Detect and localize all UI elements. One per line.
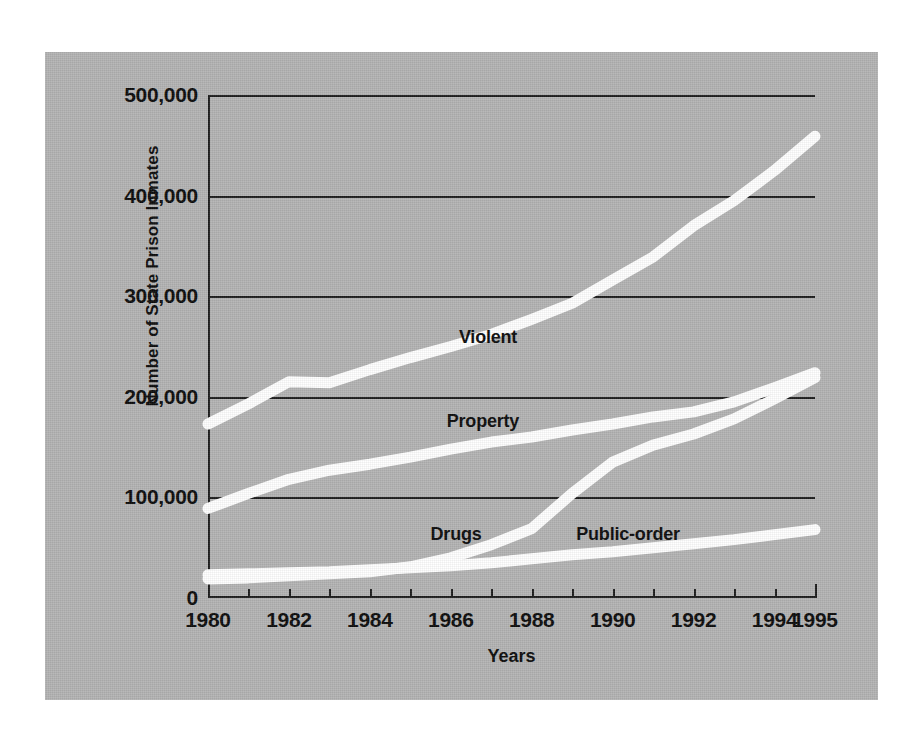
x-tick-label: 1980 (185, 608, 231, 632)
x-tick-label: 1984 (347, 608, 393, 632)
series-label-property: Property (447, 411, 519, 432)
series-label-drugs: Drugs (431, 524, 482, 545)
x-tick-label: 1982 (266, 608, 312, 632)
y-tick-label: 500,000 (124, 83, 198, 107)
y-tick-label: 0 (187, 586, 198, 610)
x-tick-label: 1986 (428, 608, 474, 632)
x-tick-label: 1994 (752, 608, 798, 632)
series-label-violent: Violent (459, 327, 517, 348)
series-label-public-order: Public-order (576, 524, 680, 545)
y-tick-label: 200,000 (124, 385, 198, 409)
x-axis-title: Years (208, 646, 815, 667)
x-tick-label: 1990 (590, 608, 636, 632)
x-tick-label: 1988 (509, 608, 555, 632)
x-axis-tick (815, 584, 817, 598)
plot-area: ViolentPropertyDrugsPublic-order (208, 95, 815, 598)
series-line-violent (208, 136, 815, 424)
y-axis-tick-labels: 500,000400,000300,000200,000100,0000 (45, 95, 198, 598)
chart-panel: Number of State Prison Inmates 500,00040… (45, 52, 878, 700)
y-tick-label: 400,000 (124, 184, 198, 208)
x-tick-label: 1992 (671, 608, 717, 632)
figure-root: Number of State Prison Inmates 500,00040… (0, 0, 921, 731)
series-line-property (208, 373, 815, 509)
y-tick-label: 300,000 (124, 284, 198, 308)
y-tick-label: 100,000 (124, 485, 198, 509)
x-axis-tick-labels: 198019821984198619881990199219941995 (208, 608, 815, 640)
x-tick-label: 1995 (792, 608, 838, 632)
